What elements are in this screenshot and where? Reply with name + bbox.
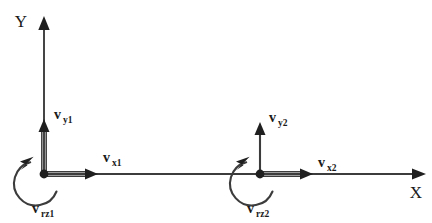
v-y2-label-base: v [269,110,276,125]
v-y2-label-subscript: y2 [278,118,288,128]
x-axis-label: X [410,183,422,202]
v-y1-label-base: v [54,107,61,122]
node-1-dot [40,170,49,179]
v-x2-label-base: v [318,155,325,170]
v-x1-label: v x1 [103,150,122,168]
diagram-canvas: Y X v [0,0,432,223]
v-x1-label-subscript: x1 [112,158,122,168]
v-rz1-label-subscript: rz1 [41,209,54,219]
v-x1-label-base: v [103,150,110,165]
v-rz2-label-base: v [247,201,254,216]
velocity-diagram-figure: Y X v [0,0,432,223]
v-x2-label: v x2 [318,155,337,173]
x-axis-arrowhead [412,169,426,180]
node-2-group: v x2 v y2 v rz2 [230,110,337,219]
v-y2-arrowhead [255,122,266,135]
v-rz2-label-subscript: rz2 [256,209,269,219]
coordinate-axes: Y X [15,12,426,202]
v-y1-label-subscript: y1 [63,115,73,125]
v-x2-arrowhead [300,169,313,180]
node-2-dot [256,170,265,179]
v-rz2-arc [230,162,272,205]
v-rz1-arrowhead [20,157,34,170]
v-y2-vector [255,122,266,174]
v-y2-label: v y2 [269,110,288,128]
v-x1-arrowhead [85,169,98,180]
y-axis-arrowhead [38,16,49,30]
v-x2-label-subscript: x2 [327,163,337,173]
v-y1-label: v y1 [54,107,73,125]
v-rz1-arc [14,162,56,205]
v-rz2-arrowhead [236,157,250,170]
y-axis-label: Y [15,12,27,31]
v-rz1-label-base: v [32,201,39,216]
node-1-group: v x1 v y1 v rz1 [14,107,122,219]
v-y1-arrowhead [39,119,50,132]
